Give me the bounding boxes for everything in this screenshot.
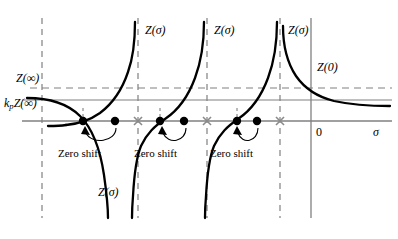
zero-shift-arrow-3 [233,126,258,140]
curve-spacer [46,128,62,131]
zero-marker-shifted-2 [156,117,164,125]
impedance-zero-shift-diagram: Z(∞) kpZ(∞) Z(σ) Z(σ) Z(σ) Z(σ) Z(0) 0 σ… [0,0,398,239]
diagram-canvas [0,0,398,239]
branch-2-top-label: Z(σ) [214,24,235,36]
zero-shift-arrow-2 [158,126,186,140]
zero-marker-original-2 [180,117,188,125]
z-zero-label: Z(0) [317,61,338,73]
z-infinity-label: Z(∞) [16,72,39,84]
kp-label-rest: Z(∞) [14,96,37,110]
branch-1-top-label: Z(σ) [145,24,166,36]
branch-3-top-label: Z(σ) [288,24,309,36]
zero-shift-arrow-1 [81,126,116,140]
zero-marker-shifted-1 [79,117,87,125]
curve-branch-2 [132,22,204,218]
curve-branch-1-upper [66,22,135,125]
sigma-axis-label: σ [373,126,379,138]
zero-marker-original-1 [111,117,119,125]
origin-label: 0 [316,126,322,138]
zero-marker-shifted-3 [233,117,241,125]
kp-z-infinity-label: kpZ(∞) [4,97,37,111]
curve-branch-1-tail [48,125,66,126]
zero-shift-label-1: Zero shift [58,148,101,159]
zero-shift-label-3: Zero shift [210,148,253,159]
zero-marker-original-3 [253,117,261,125]
zero-shift-label-2: Zero shift [134,148,177,159]
branch-bottom-label: Z(σ) [98,186,119,198]
